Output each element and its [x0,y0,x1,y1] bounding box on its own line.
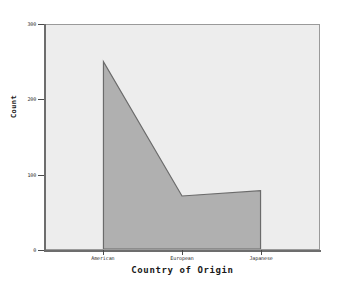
y-tick-label: 300 [2,21,36,27]
y-tick-label: 0 [2,247,36,253]
y-tick-mark [38,250,44,251]
y-tick-mark [38,99,44,100]
y-axis-title: Count [10,95,18,118]
x-tick-label: Japanese [231,255,291,262]
y-axis-line [44,24,46,251]
y-tick-mark [38,175,44,176]
x-tick-label: American [73,255,133,262]
area-series-polygon [103,62,260,249]
y-tick-mark [38,24,44,25]
area-series-svg [45,25,319,249]
x-axis-title: Country of Origin [44,265,321,275]
y-tick-label: 200 [2,96,36,102]
x-tick-label: European [152,255,212,262]
y-tick-label: 100 [2,172,36,178]
plot-area [44,24,320,250]
area-chart: 3002001000 AmericanEuropeanJapanese Coun… [0,0,358,290]
